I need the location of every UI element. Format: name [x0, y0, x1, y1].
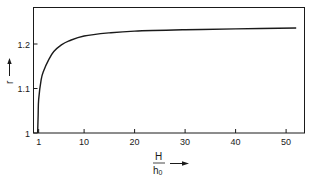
- y-axis-label: r: [4, 58, 15, 84]
- chart: 11020304050 11.11.2 r H h0: [0, 0, 312, 182]
- x-arrow-head-icon: [182, 161, 189, 165]
- plot-frame: [34, 8, 305, 134]
- y-tick-label: 1.1: [17, 84, 30, 94]
- y-arrow-head-icon: [7, 58, 11, 64]
- x-axis-label-numerator: H: [155, 151, 162, 162]
- x-tick-label: 1: [36, 137, 41, 147]
- x-tick-label: 50: [281, 137, 291, 147]
- x-tick-label: 30: [180, 137, 190, 147]
- x-axis-ticks: 11020304050: [36, 129, 291, 147]
- x-tick-label: 10: [79, 137, 89, 147]
- x-axis-label: H h0: [153, 151, 189, 176]
- x-axis-label-denominator: h0: [153, 165, 163, 176]
- data-curve: [38, 28, 297, 133]
- y-axis-label-text: r: [4, 80, 15, 84]
- x-tick-label: 40: [231, 137, 241, 147]
- y-tick-label: 1: [25, 129, 30, 139]
- x-tick-label: 20: [130, 137, 140, 147]
- y-tick-label: 1.2: [17, 40, 30, 50]
- y-axis-ticks: 11.11.2: [17, 40, 37, 139]
